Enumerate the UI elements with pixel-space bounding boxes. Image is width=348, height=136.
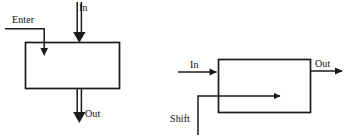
right-block-rect — [219, 60, 311, 113]
right-shift-arrow — [198, 96, 280, 135]
label-enter: Enter — [12, 14, 34, 25]
label-out-left: Out — [85, 108, 100, 119]
label-out-right: Out — [315, 58, 330, 69]
left-out-arrow — [73, 88, 85, 123]
figure-canvas: Enter In Out In Out Shift — [0, 0, 348, 135]
label-shift: Shift — [170, 113, 190, 124]
label-in-left: In — [79, 2, 88, 13]
label-in-right: In — [190, 59, 199, 70]
left-block-rect — [26, 43, 120, 89]
right-diagram — [178, 60, 342, 136]
